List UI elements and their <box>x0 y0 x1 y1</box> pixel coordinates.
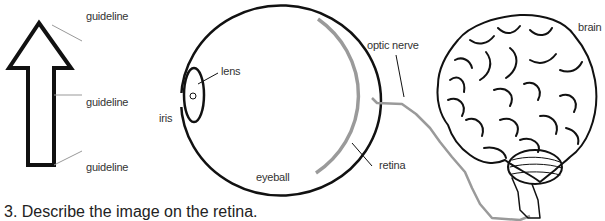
question-caption: 3. Describe the image on the retina. <box>4 203 257 221</box>
optic-nerve-label: optic nerve <box>367 39 419 51</box>
eyeball-label: eyeball <box>256 171 289 183</box>
brain-label: brain <box>578 21 601 33</box>
optic-nerve-pointer <box>396 55 404 97</box>
retina-arc <box>316 19 358 173</box>
iris-label: iris <box>159 112 172 124</box>
up-arrow-shape <box>9 23 71 165</box>
eyeball-outline <box>181 6 381 196</box>
lens-pupil-dot <box>190 93 196 99</box>
guideline-top-line <box>52 25 82 41</box>
brain-diagram <box>437 15 596 218</box>
lens-label: lens <box>221 65 240 77</box>
guideline-label-mid: guideline <box>86 96 128 108</box>
guideline-label-top: guideline <box>86 10 128 22</box>
guideline-bottom-line <box>54 151 82 165</box>
eye-diagram <box>176 6 530 221</box>
lens-ellipse <box>184 68 204 122</box>
arrow-diagram <box>0 0 605 221</box>
guideline-label-bottom: guideline <box>86 161 128 173</box>
retina-label: retina <box>379 159 405 171</box>
